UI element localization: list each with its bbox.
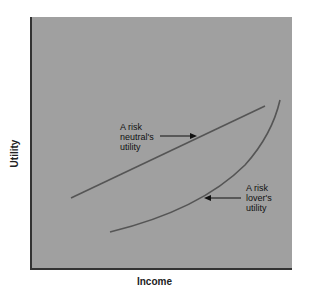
- label-line: utility: [120, 142, 154, 152]
- label-line: lover's: [246, 193, 272, 203]
- chart-curves: [0, 0, 309, 299]
- label-line: neutral's: [120, 132, 154, 142]
- label-line: A risk: [120, 122, 154, 132]
- x-axis-label: Income: [0, 276, 309, 287]
- risk-neutral-line: [71, 106, 265, 198]
- label-line: utility: [246, 203, 272, 213]
- risk-neutral-label: A risk neutral's utility: [120, 122, 154, 152]
- risk-lover-label: A risk lover's utility: [246, 183, 272, 213]
- y-axis-label: Utility: [9, 134, 20, 174]
- label-line: A risk: [246, 183, 272, 193]
